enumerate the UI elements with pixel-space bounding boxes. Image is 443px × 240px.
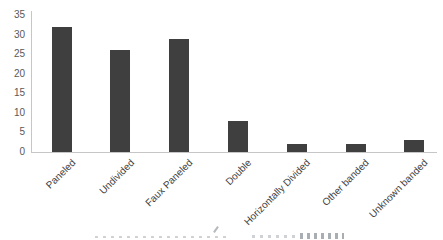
cropped-caption-fragment: [95, 236, 230, 238]
x-category-label-unknown-banded: Unknown banded: [367, 157, 430, 220]
bar-undivided: [110, 50, 130, 152]
bar-faux-paneled: [169, 39, 189, 152]
bar-double: [228, 121, 248, 152]
y-tick-label-20: 20: [0, 69, 25, 79]
y-tick-label-35: 35: [0, 10, 25, 20]
y-tick-label-0: 0: [0, 147, 25, 157]
bar-chart: 05101520253035PaneledUndividedFaux Panel…: [0, 0, 443, 240]
x-category-label-other-banded: Other banded: [320, 157, 371, 208]
bar-horizontally-divided: [287, 144, 307, 152]
cropped-caption-fragment: [252, 235, 298, 238]
x-category-label-paneled: Paneled: [44, 157, 78, 191]
bar-unknown-banded: [404, 140, 424, 152]
x-axis-line: [31, 152, 437, 153]
x-category-label-double: Double: [223, 157, 253, 187]
x-category-label-undivided: Undivided: [97, 157, 136, 196]
bar-paneled: [52, 27, 72, 152]
y-tick-label-5: 5: [0, 127, 25, 137]
y-tick-label-15: 15: [0, 88, 25, 98]
x-category-label-horizontally-divided: Horizontally Divided: [242, 157, 312, 227]
y-tick-label-25: 25: [0, 49, 25, 59]
bar-other-banded: [346, 144, 366, 152]
y-axis-line: [31, 11, 32, 153]
cropped-caption-fragment: [213, 226, 219, 233]
x-category-label-faux-paneled: Faux Paneled: [143, 157, 194, 208]
cropped-caption-fragment: [300, 233, 344, 239]
y-tick-label-30: 30: [0, 30, 25, 40]
y-tick-label-10: 10: [0, 108, 25, 118]
